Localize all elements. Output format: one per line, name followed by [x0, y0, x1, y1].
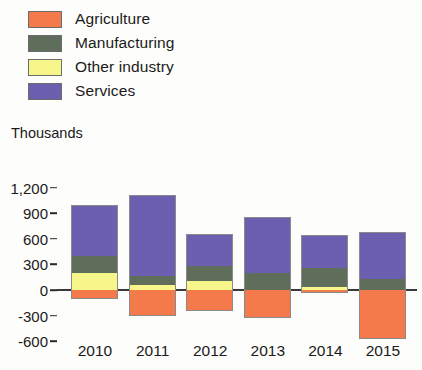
- bar-segment: [71, 205, 118, 256]
- bar-segment: [186, 290, 233, 311]
- bar-group: [244, 0, 291, 370]
- x-axis-tick-label: 2012: [180, 342, 240, 360]
- y-axis-tick-label: -600: [4, 333, 48, 350]
- bar-segment: [186, 281, 233, 290]
- bar-segment: [301, 268, 348, 288]
- x-axis-tick-label: 2014: [295, 342, 355, 360]
- bar-segment: [71, 273, 118, 290]
- y-axis-tick-mark: [50, 212, 57, 214]
- x-axis-tick-label: 2015: [353, 342, 413, 360]
- bar-group: [186, 0, 233, 370]
- bar-segment: [129, 276, 176, 285]
- bar-group: [359, 0, 406, 370]
- y-axis-tick-label: 300: [4, 256, 48, 273]
- bar-chart: AgricultureManufacturingOther industrySe…: [0, 0, 422, 370]
- y-axis-tick-mark: [50, 264, 57, 266]
- bar-segment: [359, 232, 406, 279]
- y-axis-tick-mark: [50, 238, 57, 240]
- bar-segment: [301, 290, 348, 293]
- bar-segment: [359, 290, 406, 339]
- y-axis-tick-label: 0: [4, 282, 48, 299]
- bar-segment: [244, 290, 291, 318]
- x-axis-tick-label: 2011: [123, 342, 183, 360]
- y-axis-tick-mark: [50, 187, 57, 189]
- x-axis-tick-label: 2013: [238, 342, 298, 360]
- x-axis-tick-label: 2010: [65, 342, 125, 360]
- plot-area: 1,2009006003000-300-60020102011201220132…: [0, 0, 422, 370]
- bar-segment: [244, 273, 291, 290]
- bar-group: [129, 0, 176, 370]
- bar-segment: [244, 217, 291, 272]
- y-axis-tick-mark: [50, 289, 57, 291]
- y-axis-tick-label: 600: [4, 230, 48, 247]
- y-axis-tick-mark: [50, 340, 57, 342]
- y-axis-tick-label: 1,200: [4, 179, 48, 196]
- bar-group: [301, 0, 348, 370]
- y-axis-tick-label: 900: [4, 205, 48, 222]
- bar-segment: [186, 266, 233, 281]
- bar-group: [71, 0, 118, 370]
- bar-segment: [71, 290, 118, 299]
- bar-segment: [129, 290, 176, 316]
- bar-segment: [186, 234, 233, 266]
- bar-segment: [301, 235, 348, 267]
- y-axis-tick-label: -300: [4, 307, 48, 324]
- bar-segment: [71, 256, 118, 273]
- bar-segment: [359, 279, 406, 290]
- bar-segment: [129, 195, 176, 276]
- y-axis-tick-mark: [50, 315, 57, 317]
